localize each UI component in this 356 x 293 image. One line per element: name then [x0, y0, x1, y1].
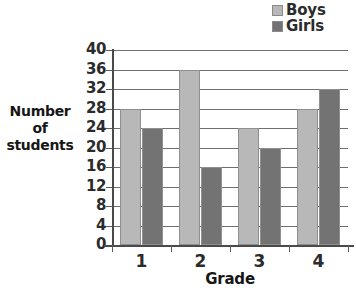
x-axis-title: Grade [112, 270, 348, 288]
y-tick-label: 0 [72, 237, 106, 252]
y-tick-label: 40 [72, 42, 106, 57]
x-tick-mark [171, 245, 172, 252]
y-tick-label: 20 [72, 140, 106, 155]
bar-boys-grade-2 [179, 70, 200, 246]
bar-boys-grade-3 [238, 128, 259, 245]
bar-girls-grade-4 [319, 89, 340, 245]
y-tick-label: 32 [72, 81, 106, 96]
y-tick-label: 28 [72, 101, 106, 116]
x-tick-label-3: 3 [245, 252, 275, 271]
x-tick-mark [230, 245, 231, 252]
x-tick-mark [289, 245, 290, 252]
bar-girls-grade-1 [142, 128, 163, 245]
gridline [112, 89, 348, 90]
x-axis-line [104, 245, 354, 247]
y-tick-label: 24 [72, 120, 106, 135]
plot-frame [112, 50, 348, 245]
bar-boys-grade-4 [297, 109, 318, 246]
bar-girls-grade-2 [201, 167, 222, 245]
x-tick-mark [348, 245, 349, 252]
y-axis-line [112, 49, 114, 247]
y-tick-label: 4 [72, 218, 106, 233]
y-tick-label: 8 [72, 198, 106, 213]
y-tick-label: 36 [72, 62, 106, 77]
x-tick-label-2: 2 [186, 252, 216, 271]
gridline [112, 70, 348, 71]
plot-area [112, 50, 348, 245]
y-tick-label: 16 [72, 159, 106, 174]
bar-boys-grade-1 [120, 109, 141, 246]
gridline [112, 50, 348, 51]
bar-girls-grade-3 [260, 148, 281, 246]
x-tick-mark [112, 245, 113, 252]
y-tick-label: 12 [72, 179, 106, 194]
x-tick-label-1: 1 [127, 252, 157, 271]
x-tick-label-4: 4 [304, 252, 334, 271]
